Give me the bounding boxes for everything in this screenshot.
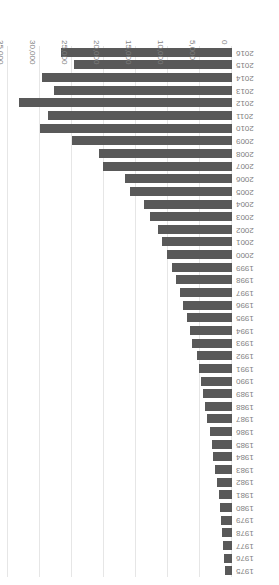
value-tick-label: 15,000 bbox=[124, 40, 133, 64]
axis-area: 05,00010,00015,00020,00025,00030,00035,0… bbox=[0, 0, 279, 585]
value-tick-label: 25,000 bbox=[60, 40, 69, 64]
value-tick-label: 35,000 bbox=[0, 40, 5, 64]
value-tick-label: 0 bbox=[220, 40, 229, 44]
value-tick-label: 20,000 bbox=[92, 40, 101, 64]
bar-chart: 1975197619771978197919801981198219831984… bbox=[0, 0, 279, 585]
value-tick-label: 30,000 bbox=[28, 40, 37, 64]
value-tick-label: 5,000 bbox=[188, 40, 197, 60]
rotated-figure-container: 1975197619771978197919801981198219831984… bbox=[0, 0, 279, 585]
value-tick-label: 10,000 bbox=[156, 40, 165, 64]
